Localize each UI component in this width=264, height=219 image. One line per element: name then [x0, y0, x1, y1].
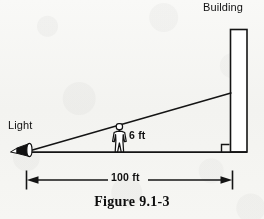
arrow-right-icon [221, 176, 233, 184]
figure-caption: Figure 9.1-3 [0, 194, 264, 210]
light-label: Light [8, 120, 32, 131]
figure-page: Building Light 6 ft 100 ft Figure 9.1-3 [0, 0, 264, 219]
light-ray-line [29, 93, 231, 151]
person-height-label: 6 ft [129, 130, 146, 141]
arrow-left-icon [27, 176, 39, 184]
distance-label: 100 ft [111, 172, 140, 183]
spotlight-cone-icon [11, 143, 33, 156]
right-angle-mark-icon [222, 145, 230, 153]
building-label: Building [203, 2, 243, 13]
building-rect [231, 30, 248, 153]
figure-diagram [0, 0, 264, 219]
person-figure-icon [113, 124, 127, 152]
